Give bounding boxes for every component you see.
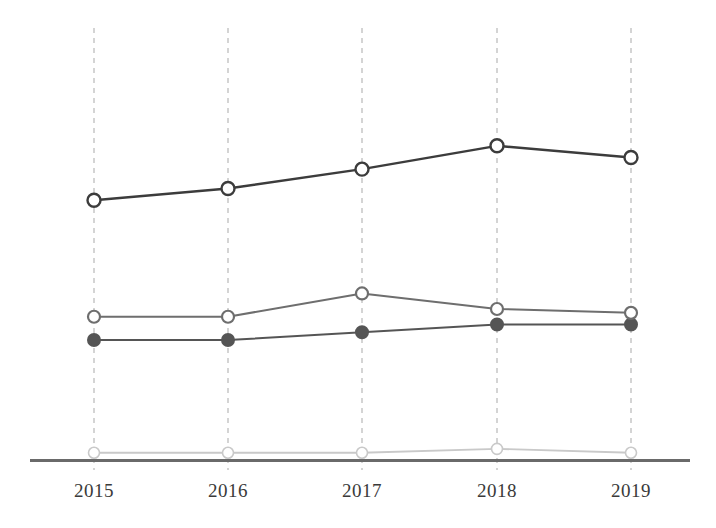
series-4-point-2016: [223, 447, 234, 458]
series-1-point-2015: [88, 194, 101, 207]
series-1-point-2017: [356, 163, 369, 176]
series-4-point-2017: [357, 447, 368, 458]
series-3-point-2016: [222, 334, 234, 346]
x-tick-label-2019: 2019: [611, 480, 651, 502]
series-4-point-2018: [492, 443, 503, 454]
series-1-point-2019: [625, 151, 638, 164]
series-3-point-2015: [88, 334, 100, 346]
series-4-point-2015: [89, 447, 100, 458]
series-2-point-2015: [88, 311, 100, 323]
series-1-point-2018: [491, 139, 504, 152]
x-tick-label-2018: 2018: [477, 480, 517, 502]
series-3-point-2019: [625, 319, 637, 331]
chart-plot-area: [0, 0, 716, 528]
line-chart: 2015 2016 2017 2018 2019: [0, 0, 716, 528]
x-tick-label-2017: 2017: [342, 480, 382, 502]
series-2-point-2017: [356, 287, 368, 299]
series-1-point-2016: [222, 182, 235, 195]
gridlines: [94, 28, 631, 470]
x-tick-label-2015: 2015: [74, 480, 114, 502]
series-2-point-2019: [625, 307, 637, 319]
series-3-point-2018: [491, 319, 503, 331]
series-4-line-group: [89, 443, 637, 458]
series-3-point-2017: [356, 326, 368, 338]
series-2-point-2016: [222, 311, 234, 323]
series-2-point-2018: [491, 303, 503, 315]
series-4-point-2019: [626, 447, 637, 458]
x-tick-label-2016: 2016: [208, 480, 248, 502]
series-2-line-group: [88, 287, 637, 322]
